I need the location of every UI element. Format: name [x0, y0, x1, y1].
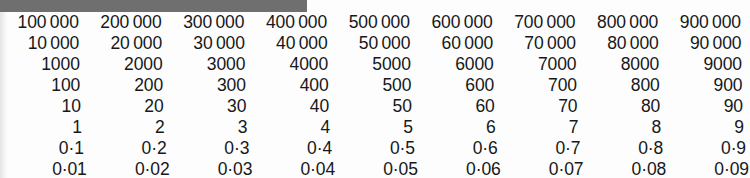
number-cell: 0·9 — [667, 138, 750, 159]
number-row: 0·010·020·030·040·050·060·070·080·09 — [8, 159, 750, 178]
number-cell: 2000 — [84, 54, 167, 75]
number-row: 100020003000400050006000700080009000 — [1, 54, 746, 75]
number-cell: 700 000 — [497, 12, 580, 33]
number-cell: 0·3 — [171, 138, 254, 159]
number-cell: 7000 — [498, 54, 581, 75]
number-cell: 20 000 — [83, 33, 166, 54]
number-cell: 6000 — [415, 54, 498, 75]
number-cell: 100 000 — [0, 12, 83, 33]
number-cell: 0·8 — [584, 138, 667, 159]
number-cell: 40 000 — [249, 33, 332, 54]
number-cell: 60 000 — [414, 33, 497, 54]
number-cell: 90 000 — [663, 33, 746, 54]
number-cell: 9 — [665, 117, 748, 138]
number-cell: 8000 — [580, 54, 663, 75]
number-cell: 3 — [169, 117, 252, 138]
number-cell: 600 — [415, 75, 498, 96]
number-row: 100200300400500600700800900 — [2, 75, 747, 96]
number-cell: 200 — [84, 75, 167, 96]
number-cell: 0·03 — [174, 159, 257, 178]
number-cell: 9000 — [663, 54, 746, 75]
number-cell: 0·08 — [587, 159, 670, 178]
number-cell: 30 — [168, 96, 251, 117]
number-cell: 900 000 — [662, 12, 745, 33]
number-cell: 400 — [250, 75, 333, 96]
scanned-page: 100 000200 000300 000400 000500 000600 0… — [0, 0, 750, 178]
number-cell: 10 — [2, 96, 85, 117]
number-cell: 80 000 — [580, 33, 663, 54]
number-cell: 50 — [333, 96, 416, 117]
number-row: 0·10·20·30·40·50·60·70·80·9 — [5, 138, 750, 159]
number-cell: 70 000 — [497, 33, 580, 54]
number-cell: 400 000 — [248, 12, 331, 33]
number-cell: 2 — [86, 117, 169, 138]
number-cell: 40 — [250, 96, 333, 117]
number-cell: 0·04 — [256, 159, 339, 178]
number-cell: 80 — [581, 96, 664, 117]
number-cell: 0·1 — [5, 138, 88, 159]
number-cell: 5000 — [332, 54, 415, 75]
number-cell: 0·07 — [505, 159, 588, 178]
place-value-number-grid: 100 000200 000300 000400 000500 000600 0… — [0, 12, 750, 178]
number-cell: 4 — [251, 117, 334, 138]
number-cell: 800 — [581, 75, 664, 96]
number-cell: 0·5 — [336, 138, 419, 159]
number-cell: 600 000 — [414, 12, 497, 33]
number-cell: 300 000 — [166, 12, 249, 33]
number-row: 102030405060708090 — [2, 96, 747, 117]
number-cell: 10 000 — [1, 33, 84, 54]
number-row: 10 00020 00030 00040 00050 00060 00070 0… — [1, 33, 746, 54]
top-gray-bar-nick — [307, 0, 309, 12]
number-cell: 1 — [3, 117, 86, 138]
number-cell: 90 — [664, 96, 747, 117]
number-cell: 0·4 — [253, 138, 336, 159]
number-cell: 800 000 — [579, 12, 662, 33]
number-cell: 4000 — [249, 54, 332, 75]
number-cell: 8 — [582, 117, 665, 138]
number-cell: 500 — [333, 75, 416, 96]
number-cell: 50 000 — [332, 33, 415, 54]
number-cell: 7 — [500, 117, 583, 138]
number-cell: 20 — [85, 96, 168, 117]
number-row: 123456789 — [3, 117, 748, 138]
number-cell: 0·2 — [88, 138, 171, 159]
number-cell: 3000 — [167, 54, 250, 75]
number-cell: 0·6 — [419, 138, 502, 159]
number-cell: 70 — [499, 96, 582, 117]
number-cell: 0·09 — [670, 159, 750, 178]
number-cell: 0·7 — [502, 138, 585, 159]
number-cell: 700 — [498, 75, 581, 96]
number-cell: 0·01 — [8, 159, 91, 178]
number-cell: 30 000 — [166, 33, 249, 54]
number-cell: 500 000 — [331, 12, 414, 33]
number-cell: 200 000 — [83, 12, 166, 33]
number-cell: 100 — [2, 75, 85, 96]
number-cell: 0·02 — [91, 159, 174, 178]
top-gray-bar — [0, 0, 307, 12]
number-cell: 6 — [417, 117, 500, 138]
number-cell: 60 — [416, 96, 499, 117]
number-cell: 0·05 — [339, 159, 422, 178]
number-row: 100 000200 000300 000400 000500 000600 0… — [0, 12, 745, 33]
number-cell: 5 — [334, 117, 417, 138]
number-cell: 900 — [664, 75, 747, 96]
number-cell: 0·06 — [422, 159, 505, 178]
number-cell: 1000 — [1, 54, 84, 75]
number-cell: 300 — [167, 75, 250, 96]
